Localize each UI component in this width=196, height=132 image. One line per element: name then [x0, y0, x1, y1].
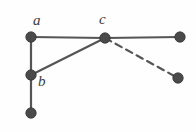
edges-group [31, 37, 180, 113]
node-label-b: b [38, 74, 46, 89]
graph-edge-c-f [105, 38, 178, 78]
graph-edge-b-c [31, 38, 105, 75]
nodes-group [26, 32, 185, 118]
node-label-a: a [33, 13, 41, 28]
graph-canvas [0, 0, 196, 132]
graph-node-c [100, 33, 110, 43]
graph-node-d [26, 108, 36, 118]
node-label-c: c [99, 12, 106, 27]
graph-figure: a b c [0, 0, 196, 132]
graph-node-a [26, 32, 36, 42]
graph-node-f [173, 73, 183, 83]
graph-edge-a-c [31, 37, 105, 38]
graph-edge-c-e [105, 37, 180, 38]
graph-node-b [26, 70, 36, 80]
graph-node-e [175, 32, 185, 42]
